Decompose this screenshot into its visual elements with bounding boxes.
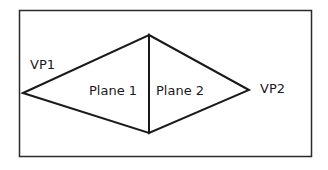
vp2-label: VP2 [260,81,285,96]
plane-1-label: Plane 1 [89,83,137,98]
vp1-label: VP1 [30,57,55,72]
perspective-diagram: VP1 Plane 1 Plane 2 VP2 [0,0,328,170]
plane-2-label: Plane 2 [156,83,204,98]
